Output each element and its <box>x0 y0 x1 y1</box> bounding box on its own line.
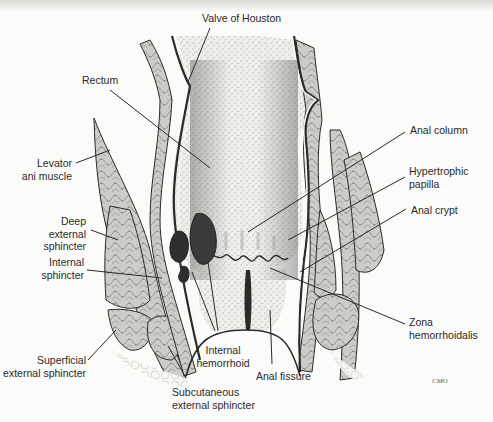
label-subcutaneous-external-sphincter: Subcutaneous external sphincter <box>172 386 255 411</box>
label-rectum: Rectum <box>82 74 118 87</box>
label-valve-of-houston: Valve of Houston <box>202 12 281 25</box>
label-internal-sphincter: Internal sphincter <box>30 256 84 281</box>
label-zona-hemorrhoidalis: Zona hemorrhoidalis <box>409 316 478 341</box>
label-anal-fissure: Anal fissure <box>256 370 311 383</box>
anal-fissure <box>245 270 252 330</box>
label-hypertrophic-papilla: Hypertrophic papilla <box>409 165 469 190</box>
label-levator-ani-muscle: Levator ani muscle <box>18 157 72 182</box>
internal-hemorrhoid-small <box>170 231 188 262</box>
label-anal-column: Anal column <box>410 124 468 137</box>
label-superficial-external-sphincter: Superficial external sphincter <box>0 354 86 379</box>
label-deep-external-sphincter: Deep external sphincter <box>30 215 86 253</box>
label-anal-crypt: Anal crypt <box>411 204 458 217</box>
artist-signature: CMO <box>432 377 448 385</box>
left-superficial-external-sphincter <box>108 309 151 350</box>
label-internal-hemorrhoid: Internal hemorrhoid <box>195 344 251 369</box>
